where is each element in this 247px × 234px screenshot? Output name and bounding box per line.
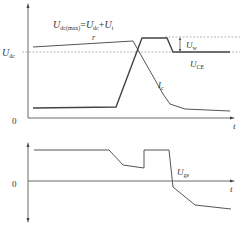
- top-x-arrow-icon: [230, 117, 235, 120]
- uw-arrow-up-icon: [179, 37, 181, 40]
- top-chart: Udc 0 t Udc(max)=Udc+Ut r Uw UCE Ic: [2, 3, 240, 131]
- bottom-origin-label: 0: [12, 179, 17, 189]
- bottom-t-label: t: [230, 184, 233, 194]
- r-label: r: [92, 33, 96, 42]
- bottom-chart: 0 t Uge: [12, 142, 235, 223]
- uw-label: Uw: [186, 40, 198, 51]
- formula-label: Udc(max)=Udc+Ut: [53, 19, 114, 32]
- bottom-y-down-arrow-icon: [27, 218, 30, 223]
- uge-label: Uge: [177, 167, 190, 178]
- top-t-label: t: [233, 121, 236, 131]
- ic-label: Ic: [157, 80, 164, 91]
- bottom-y-up-arrow-icon: [27, 142, 30, 147]
- diagram-canvas: Udc 0 t Udc(max)=Udc+Ut r Uw UCE Ic 0 t …: [0, 0, 247, 234]
- top-y-arrow-icon: [27, 3, 30, 8]
- bottom-x-arrow-icon: [230, 180, 235, 183]
- uge-curve: [34, 150, 231, 209]
- udc-label: Udc: [2, 47, 15, 59]
- uce-curve: [33, 38, 230, 108]
- uce-label: UCE: [190, 59, 205, 70]
- top-origin-label: 0: [12, 116, 17, 126]
